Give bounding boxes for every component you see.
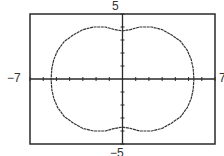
plot-area: [0, 0, 224, 156]
x-min-label: −7: [7, 72, 21, 84]
axes: [30, 14, 215, 144]
y-max-label: 5: [112, 0, 119, 12]
x-max-label: 7: [219, 72, 224, 84]
y-min-label: −5: [110, 147, 124, 156]
